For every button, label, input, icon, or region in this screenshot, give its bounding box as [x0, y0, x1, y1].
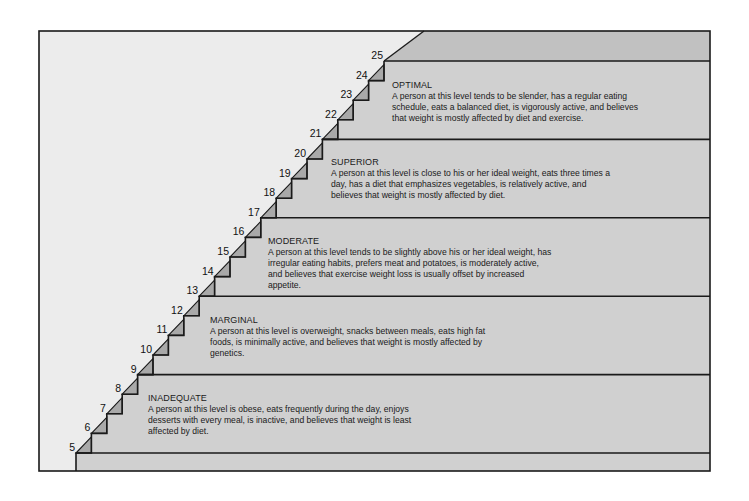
- level-inadequate: INADEQUATE A person at this level is obe…: [148, 393, 411, 437]
- step-number: 13: [187, 285, 199, 296]
- level-title: INADEQUATE: [148, 393, 411, 404]
- level-description-line: schedule, eats a balanced diet, is vigor…: [392, 102, 638, 113]
- level-description-line: A person at this level is overweight, sn…: [210, 326, 485, 337]
- step-number: 19: [279, 167, 291, 178]
- step-number: 16: [233, 226, 245, 237]
- level-title: SUPERIOR: [331, 157, 610, 168]
- level-description-line: appetite.: [268, 280, 551, 291]
- step-number: 15: [217, 246, 229, 257]
- level-description-line: A person at this level is obese, eats fr…: [148, 404, 411, 415]
- step-number: 24: [356, 69, 368, 80]
- level-description-line: irregular eating habits, prefers meat an…: [268, 258, 551, 269]
- level-description-line: desserts with every meal, is inactive, a…: [148, 415, 411, 426]
- level-superior: SUPERIOR A person at this level is close…: [331, 157, 610, 201]
- level-title: OPTIMAL: [392, 80, 638, 91]
- step-number: 18: [264, 187, 276, 198]
- level-description-line: believes that weight is mostly affected …: [331, 190, 610, 201]
- level-moderate: MODERATE A person at this level tends to…: [268, 236, 551, 291]
- top-band: [384, 31, 710, 61]
- level-title: MODERATE: [268, 236, 551, 247]
- step-number: 22: [325, 108, 337, 119]
- step-number: 14: [202, 265, 214, 276]
- step-number: 11: [156, 324, 167, 335]
- step-number: 12: [171, 304, 183, 315]
- level-description-line: A person at this level tends to be sligh…: [268, 247, 551, 258]
- level-description-line: affected by diet.: [148, 426, 411, 437]
- level-description-line: and believes that exercise weight loss i…: [268, 269, 551, 280]
- staircase-diagram: 5678910111213141516171819202122232425 OP…: [0, 0, 749, 501]
- step-number: 9: [131, 363, 137, 374]
- step-number: 10: [140, 344, 152, 355]
- step-number: 20: [294, 148, 306, 159]
- level-description-line: day, has a diet that emphasizes vegetabl…: [331, 179, 610, 190]
- level-marginal: MARGINAL A person at this level is overw…: [210, 315, 485, 359]
- level-description-line: that weight is mostly affected by diet a…: [392, 113, 638, 124]
- step-number: 5: [69, 442, 75, 453]
- level-description-line: A person at this level is close to his o…: [331, 168, 610, 179]
- level-title: MARGINAL: [210, 315, 485, 326]
- step-number: 23: [341, 89, 353, 100]
- step-number: 8: [115, 383, 121, 394]
- step-number: 25: [371, 50, 383, 61]
- level-description-line: foods, is minimally active, and believes…: [210, 337, 485, 348]
- step-number: 6: [85, 422, 91, 433]
- step-number: 7: [100, 402, 106, 413]
- level-description-line: A person at this level tends to be slend…: [392, 91, 638, 102]
- step-number: 21: [310, 128, 322, 139]
- level-description-line: genetics.: [210, 348, 485, 359]
- level-optimal: OPTIMAL A person at this level tends to …: [392, 80, 638, 124]
- step-number: 17: [248, 206, 260, 217]
